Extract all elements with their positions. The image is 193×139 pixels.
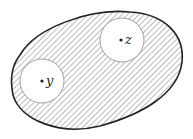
diagram-canvas: z y (0, 0, 193, 139)
point-label-y: y (45, 73, 54, 88)
point-label-z: z (124, 32, 132, 47)
point-y (40, 79, 43, 82)
point-z (119, 38, 122, 41)
